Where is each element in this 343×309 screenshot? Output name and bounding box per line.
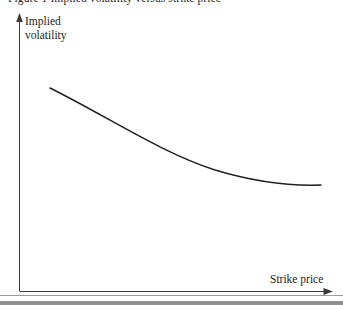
y-axis-label-line2: volatility <box>25 29 67 43</box>
footer-rule-thick <box>0 301 343 305</box>
y-axis-label-line1: Implied <box>25 15 67 29</box>
volatility-curve <box>50 88 321 185</box>
figure-container: Figure 1 Implied volatility versus strik… <box>0 0 343 309</box>
x-axis-label: Strike price <box>270 273 323 287</box>
y-axis-label: Implied volatility <box>25 15 67 42</box>
arrow-right-icon <box>324 288 334 295</box>
x-axis <box>20 288 334 295</box>
arrow-up-icon <box>16 13 23 22</box>
footer-rule-thin <box>0 295 343 296</box>
chart-plot <box>0 0 343 309</box>
y-axis <box>16 13 23 291</box>
